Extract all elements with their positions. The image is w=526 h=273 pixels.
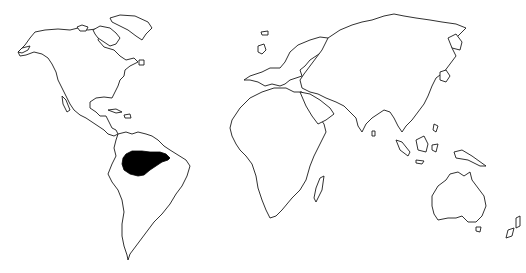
japan: [440, 70, 450, 82]
world-map: [0, 0, 526, 273]
philippines: [433, 124, 438, 132]
madagascar: [314, 176, 324, 202]
hispaniola: [124, 114, 131, 118]
sri-lanka: [372, 131, 375, 136]
south-america: [108, 132, 190, 260]
australia: [432, 172, 486, 222]
iceland: [261, 31, 268, 35]
new-zealand-south: [506, 228, 514, 238]
java: [416, 160, 424, 164]
cuba: [108, 109, 122, 113]
new-guinea: [454, 150, 486, 166]
north-america: [18, 28, 138, 136]
tasmania: [476, 227, 481, 232]
sumatra: [396, 140, 410, 156]
new-zealand-north: [516, 216, 520, 228]
newfoundland: [139, 60, 144, 65]
sulawesi: [432, 144, 438, 152]
borneo: [416, 136, 428, 152]
british-isles: [258, 44, 266, 54]
